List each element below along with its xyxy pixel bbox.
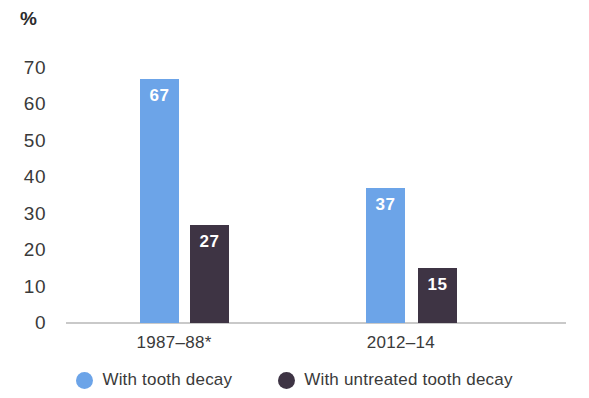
y-axis-tick-70: 70 bbox=[0, 57, 46, 79]
bar-value-label: 27 bbox=[190, 232, 229, 252]
y-axis-tick-10: 10 bbox=[0, 276, 46, 298]
bar-with-untreated-tooth-decay-1987-88: 27 bbox=[190, 225, 229, 323]
y-axis-tick-40: 40 bbox=[0, 166, 46, 188]
x-axis-label-1987-88: 1987–88* bbox=[114, 333, 234, 353]
legend-item-with-tooth-decay[interactable]: With tooth decay bbox=[76, 370, 232, 390]
bar-with-tooth-decay-1987-88: 67 bbox=[140, 79, 179, 323]
y-axis-tick-0: 0 bbox=[0, 312, 46, 334]
y-axis-tick-30: 30 bbox=[0, 203, 46, 225]
bar-value-label: 67 bbox=[140, 86, 179, 106]
bar-value-label: 15 bbox=[418, 275, 457, 295]
x-axis-label-2012-14: 2012–14 bbox=[341, 333, 461, 353]
y-axis-tick-50: 50 bbox=[0, 130, 46, 152]
legend-item-label: With untreated tooth decay bbox=[304, 370, 512, 390]
legend-color-dot-icon bbox=[278, 372, 295, 389]
legend-item-label: With tooth decay bbox=[102, 370, 232, 390]
plot-area: 67 27 37 15 bbox=[66, 40, 576, 323]
bar-chart: % 70 60 50 40 30 20 10 0 67 27 37 15 198… bbox=[0, 0, 589, 398]
bar-with-untreated-tooth-decay-2012-14: 15 bbox=[418, 268, 457, 323]
chart-legend: With tooth decay With untreated tooth de… bbox=[0, 370, 589, 390]
legend-color-dot-icon bbox=[76, 372, 93, 389]
y-axis-unit-label: % bbox=[20, 8, 37, 30]
bar-with-tooth-decay-2012-14: 37 bbox=[366, 188, 405, 323]
bar-value-label: 37 bbox=[366, 195, 405, 215]
y-axis-tick-60: 60 bbox=[0, 93, 46, 115]
legend-item-with-untreated-tooth-decay[interactable]: With untreated tooth decay bbox=[278, 370, 512, 390]
y-axis-tick-20: 20 bbox=[0, 239, 46, 261]
